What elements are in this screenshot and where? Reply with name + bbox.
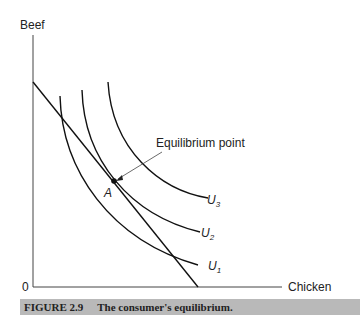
indifference-curve-u1 <box>60 96 198 265</box>
u2-label: U2 <box>201 226 214 242</box>
y-axis-label: Beef <box>20 18 45 32</box>
figure-caption: FIGURE 2.9The consumer's equilibrium. <box>20 299 360 315</box>
origin-label: 0 <box>22 280 29 294</box>
figure-number: FIGURE 2.9 <box>24 301 83 313</box>
u3-label: U3 <box>207 193 220 209</box>
u1-label: U1 <box>208 259 221 275</box>
equilibrium-label: Equilibrium point <box>156 136 245 150</box>
equilibrium-point <box>111 178 117 184</box>
point-a-label: A <box>104 186 112 200</box>
figure-title: The consumer's equilibrium. <box>97 301 232 313</box>
x-axis-label: Chicken <box>288 280 331 294</box>
